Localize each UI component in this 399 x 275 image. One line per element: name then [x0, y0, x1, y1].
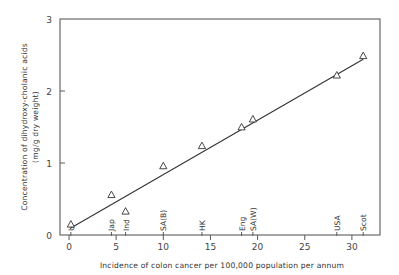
- triangle-marker: [249, 115, 256, 121]
- country-label-ticks: UJapIndSA(B)HKEngSA(W)USAScot: [67, 207, 368, 236]
- country-label: SA(W): [249, 207, 258, 231]
- y-tick-label: 1: [46, 159, 52, 169]
- country-label: Jap: [107, 219, 116, 232]
- country-label: Scot: [359, 214, 368, 231]
- country-label: Ind: [122, 219, 131, 231]
- country-label: HK: [198, 219, 207, 231]
- triangle-marker: [67, 221, 74, 227]
- y-tick-label: 2: [46, 87, 52, 97]
- y-axis-title: Concentration of dihydroxy-cholanic acid…: [20, 43, 29, 211]
- x-tick-label: 20: [252, 242, 264, 252]
- data-markers: [67, 52, 367, 227]
- x-tick-label: 10: [158, 242, 170, 252]
- x-tick-label: 5: [113, 242, 119, 252]
- y-axis-ticks: 0123: [46, 15, 65, 241]
- plot-frame: [60, 19, 380, 235]
- x-tick-label: 15: [205, 242, 216, 252]
- y-tick-label: 3: [46, 15, 52, 25]
- triangle-marker: [360, 52, 367, 58]
- triangle-marker: [122, 208, 129, 214]
- regression-line: [70, 59, 363, 228]
- plot-border: [60, 19, 380, 235]
- scatter-chart: 0123 051015202530 UJapIndSA(B)HKEngSA(W)…: [0, 0, 399, 275]
- x-tick-label: 0: [66, 242, 72, 252]
- triangle-marker: [160, 162, 167, 168]
- x-axis-title: Incidence of colon cancer per 100,000 po…: [100, 261, 344, 270]
- country-label: USA: [333, 214, 342, 231]
- triangle-marker: [238, 123, 245, 129]
- y-axis-units: (mg/g dry weight): [31, 91, 40, 163]
- triangle-marker: [198, 142, 205, 148]
- triangle-marker: [108, 191, 115, 197]
- y-tick-label: 0: [46, 231, 52, 241]
- x-tick-label: 25: [299, 242, 310, 252]
- x-axis-ticks: 051015202530: [66, 235, 358, 252]
- country-label: SA(B): [159, 210, 168, 231]
- country-label: Eng: [238, 216, 247, 231]
- x-tick-label: 30: [346, 242, 358, 252]
